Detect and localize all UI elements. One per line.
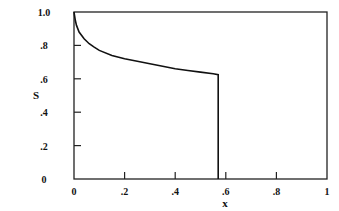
chart: 0.2.4.6.81.00.2.4.6.81 S x [0,0,339,211]
x-tick-label: .6 [222,186,230,197]
y-tick-label: .6 [40,74,48,85]
x-tick-label: 0 [72,186,77,197]
x-tick-label: .8 [273,186,281,197]
x-tick-label: 1 [325,186,330,197]
x-tick-label: .4 [171,186,179,197]
x-tick-label: .2 [121,186,129,197]
y-tick-label: .8 [40,40,48,51]
y-tick-label: 0 [42,174,47,185]
x-axis-label: x [222,197,228,209]
y-tick-label: .2 [40,141,48,152]
data-line [74,12,218,179]
y-tick-label: 1.0 [38,7,51,18]
plot-area: 0.2.4.6.81.00.2.4.6.81 [38,7,330,197]
y-axis-label: S [33,89,39,101]
y-tick-label: .4 [40,107,48,118]
plot-frame [74,12,327,179]
